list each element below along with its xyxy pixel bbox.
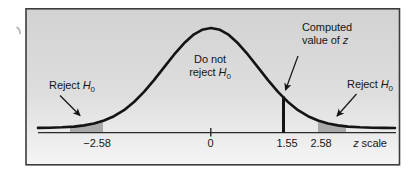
z-scale-label: zscale	[353, 137, 387, 150]
reject-word: Reject	[49, 79, 80, 91]
tick-label-neg-2-58: −2.58	[83, 137, 110, 150]
hypothesis-symbol: H	[219, 66, 227, 78]
scale-text: scale	[362, 137, 387, 149]
z-symbol: z	[353, 137, 358, 149]
computed-value-label: Computed value ofz	[302, 21, 352, 46]
reject-word: reject	[189, 66, 215, 78]
do-not-reject-label: Do not rejectH0	[189, 53, 231, 78]
do-not-reject-line2: rejectH0	[189, 66, 231, 79]
computed-value-line1: Computed	[302, 21, 352, 34]
reject-h0-left-label: RejectH0	[49, 79, 95, 92]
reject-h0-right-label: RejectH0	[347, 78, 393, 91]
reject-word: Reject	[347, 78, 378, 90]
computed-value-line2: value ofz	[302, 34, 352, 47]
value-of-text: value of	[302, 34, 340, 46]
hypothesis-subscript: 0	[389, 84, 393, 93]
hypothesis-subscript: 0	[91, 85, 95, 94]
z-symbol: z	[343, 34, 348, 46]
do-not-reject-line1: Do not	[189, 53, 231, 66]
hypothesis-subscript: 0	[226, 72, 230, 81]
tick-label-1-55: 1.55	[276, 137, 297, 150]
scan-artifact-mark	[17, 27, 21, 34]
tick-label-2-58: 2.58	[310, 137, 331, 150]
tick-label-0: 0	[207, 137, 213, 150]
figure-stage: RejectH0 Do not rejectH0 Computed value …	[0, 0, 419, 172]
